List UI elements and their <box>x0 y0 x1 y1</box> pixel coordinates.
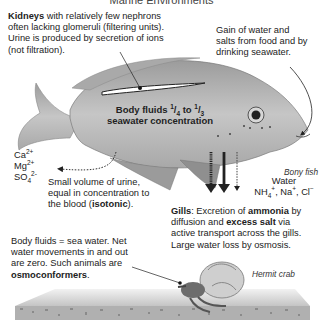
hermit-crab-label: Hermit crab <box>252 269 295 279</box>
gain-line2: salts from food and by <box>216 36 323 47</box>
gill-outputs: Water NH4+, Na+, Cl− <box>244 176 323 198</box>
ion-na: , Na <box>275 187 292 197</box>
body-fluids-text: Body fluids <box>116 104 170 115</box>
crab-annotation: Body fluids = sea water. Net water movem… <box>11 236 151 281</box>
body-fluids-annotation: Body fluids 1/4 to 1/3 seawater concentr… <box>100 104 220 126</box>
sea-floor <box>15 289 310 320</box>
kidneys-line3: Urine is produced by secretion of ions <box>8 33 188 44</box>
gills-annotation: Gills: Excretion of ammonia by diffusion… <box>171 206 323 251</box>
urine-annotation: Small volume of urine, equal in concentr… <box>48 177 178 211</box>
ion-so4: SO <box>14 172 27 182</box>
gills-line4: Large water loss by osmosis. <box>171 240 323 251</box>
gills-t2: by <box>289 206 301 216</box>
gills-line3: active transport across the gills. <box>171 228 323 239</box>
kidneys-line4: (not filtration). <box>8 45 188 56</box>
urine-line1: Small volume of urine, <box>48 177 178 188</box>
urine-line3b: ). <box>128 199 134 209</box>
osmoconformers-bold: osmoconformers <box>11 270 87 280</box>
isotonic-bold: isotonic <box>92 199 128 209</box>
ion-cl: , Cl <box>296 187 310 197</box>
gills-t4: via <box>276 217 290 227</box>
urine-line2: equal in concentration to <box>48 188 178 199</box>
crab-line1: Body fluids = sea water. Net <box>11 236 151 247</box>
kidneys-annotation: Kidneys with relatively few nephrons oft… <box>8 11 188 56</box>
gain-line1: Gain of water and <box>216 25 323 36</box>
ion-nh4-sub: 4 <box>268 192 272 199</box>
ion-mg: Mg <box>14 161 27 171</box>
fish-tail <box>18 83 78 150</box>
ion-ca-charge: 2+ <box>26 148 33 155</box>
ion-ca: Ca <box>14 150 26 160</box>
ion-so4-charge: 2- <box>31 170 37 177</box>
ion-nh4: NH <box>254 187 267 197</box>
kidneys-bold: Kidneys <box>8 11 44 21</box>
ion-cl-charge: − <box>310 185 314 192</box>
kidneys-line1: with relatively few nephrons <box>44 11 161 21</box>
frac1-num: 1 <box>170 103 174 110</box>
kidneys-line2: often lacking glomeruli (filtering units… <box>8 22 188 33</box>
excess-salt-bold: excess salt <box>226 217 276 227</box>
crab-line3: are zero. Such animals are <box>11 258 151 269</box>
body-fluids-line2: seawater concentration <box>100 115 220 126</box>
urine-line3a: the blood ( <box>48 199 92 209</box>
gills-bold: Gills <box>171 206 191 216</box>
ammonia-bold: ammonia <box>248 206 289 216</box>
gain-annotation: Gain of water and salts from food and by… <box>216 25 323 59</box>
frac2-num: 1 <box>194 103 198 110</box>
gain-line3: drinking seawater. <box>216 47 323 58</box>
crab-line2: water movements in and out <box>11 247 151 258</box>
gills-t1: : Excretion of <box>191 206 248 216</box>
ion-mg-charge: 2+ <box>27 159 34 166</box>
crab-end: . <box>87 270 90 280</box>
ion-so4-sub: 4 <box>27 177 31 184</box>
gills-t3: diffusion and <box>171 217 226 227</box>
body-fluids-to: to <box>180 104 194 115</box>
